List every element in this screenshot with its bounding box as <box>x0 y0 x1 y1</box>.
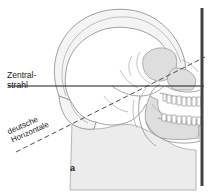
panel-letter: a <box>70 163 75 173</box>
occipital-region <box>59 96 96 129</box>
label-zentralstrahl-line2: strahl <box>7 81 36 91</box>
label-zentralstrahl: Zentral- strahl <box>7 71 36 90</box>
upper-teeth-row <box>160 93 201 106</box>
skull-diagram-svg: .bone-fill{fill:#f4f4f4;stroke:#949494;s… <box>0 0 219 192</box>
figure-lateral-skull-projection: .bone-fill{fill:#f4f4f4;stroke:#949494;s… <box>0 0 219 192</box>
upper-tooth <box>163 94 201 106</box>
